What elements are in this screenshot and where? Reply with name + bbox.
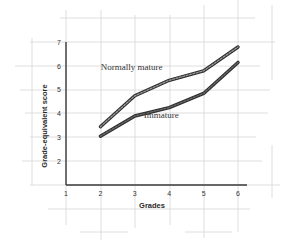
series-labels: Normally matureImmature — [101, 62, 179, 121]
x-tick-label: 2 — [98, 190, 102, 197]
y-axis-title: Grade-equivalent score — [40, 84, 49, 167]
y-tick-label: 5 — [57, 86, 61, 93]
series-line-immature — [100, 62, 238, 136]
x-tick-label: 4 — [167, 190, 171, 197]
x-tick-label: 1 — [64, 190, 68, 197]
y-tick-label: 3 — [57, 134, 61, 141]
y-tick-label: 6 — [57, 63, 61, 70]
y-tick-label: 4 — [57, 110, 61, 117]
y-tick-label: 7 — [57, 39, 61, 46]
x-tick-label: 6 — [236, 190, 240, 197]
line-chart: 123456 234567 Normally matureImmature Gr… — [0, 0, 299, 246]
y-tick-label: 2 — [57, 158, 61, 165]
series-lines — [100, 47, 238, 136]
y-tick-labels: 234567 — [57, 39, 61, 165]
x-tick-label: 3 — [133, 190, 137, 197]
series-label-normally-mature: Normally mature — [101, 62, 163, 72]
x-axis-title: Grades — [139, 201, 165, 210]
x-tick-labels: 123456 — [64, 190, 240, 197]
series-label-immature: Immature — [144, 110, 179, 120]
x-tick-label: 5 — [202, 190, 206, 197]
